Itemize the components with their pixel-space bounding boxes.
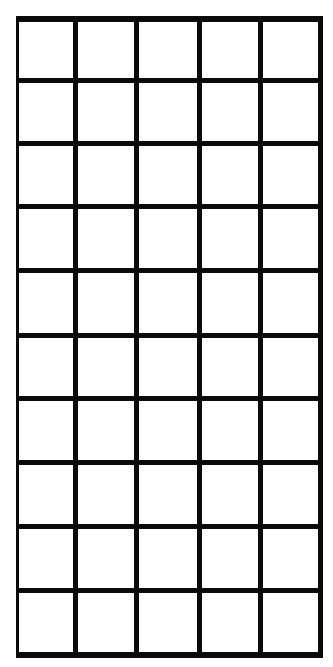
grid-border-bottom — [16, 652, 323, 658]
grid-row-divider — [16, 141, 323, 146]
grid-row-divider — [16, 460, 323, 465]
grid-row-divider — [16, 333, 323, 338]
grid-border-top — [16, 16, 323, 22]
grid-row-divider — [16, 268, 323, 273]
grid-row-divider — [16, 524, 323, 529]
grid-row-divider — [16, 204, 323, 209]
grid-row-divider — [16, 588, 323, 593]
empty-grid-diagram — [0, 0, 333, 667]
grid-row-divider — [16, 396, 323, 401]
grid-row-divider — [16, 78, 323, 83]
